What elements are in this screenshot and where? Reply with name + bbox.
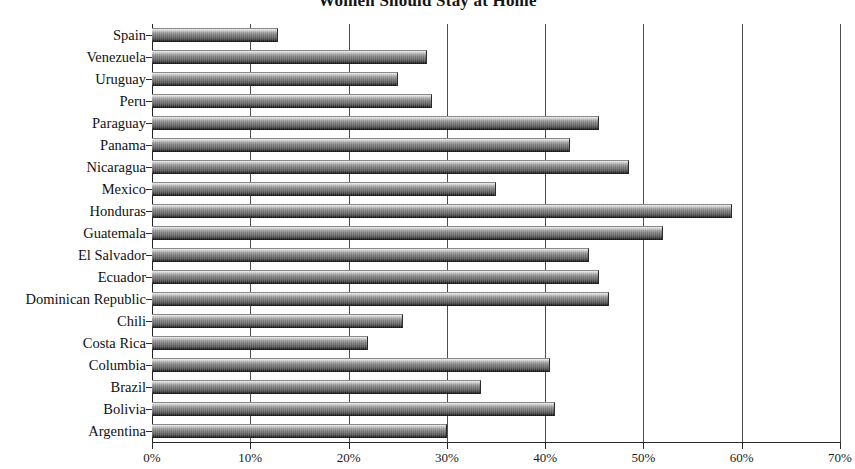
category-label: Argentina bbox=[0, 420, 146, 442]
category-label: Peru bbox=[0, 90, 146, 112]
bar bbox=[152, 292, 609, 306]
category-label: Spain bbox=[0, 24, 146, 46]
category-label: Dominican Republic bbox=[0, 288, 146, 310]
chart-row: Uruguay bbox=[0, 68, 855, 90]
x-tick-40 bbox=[545, 442, 546, 449]
bar bbox=[152, 270, 599, 284]
bar bbox=[152, 402, 555, 416]
category-label: Honduras bbox=[0, 200, 146, 222]
x-tick-label: 0% bbox=[143, 450, 160, 466]
bar bbox=[152, 116, 599, 130]
bar bbox=[152, 314, 403, 328]
bar bbox=[152, 182, 496, 196]
chart-row: Costa Rica bbox=[0, 332, 855, 354]
chart-row: Guatemala bbox=[0, 222, 855, 244]
category-label: Guatemala bbox=[0, 222, 146, 244]
category-label: Brazil bbox=[0, 376, 146, 398]
chart-row: Nicaragua bbox=[0, 156, 855, 178]
bar bbox=[152, 358, 550, 372]
category-label: Panama bbox=[0, 134, 146, 156]
chart-row: Peru bbox=[0, 90, 855, 112]
x-tick-label: 20% bbox=[337, 450, 361, 466]
chart-row: Columbia bbox=[0, 354, 855, 376]
chart-row: Spain bbox=[0, 24, 855, 46]
chart-title: Women Should Stay at Home bbox=[0, 0, 855, 11]
bar bbox=[152, 380, 481, 394]
x-tick-label: 30% bbox=[435, 450, 459, 466]
category-label: Chili bbox=[0, 310, 146, 332]
bar bbox=[152, 72, 398, 86]
x-tick-10 bbox=[250, 442, 251, 449]
x-tick-60 bbox=[742, 442, 743, 449]
x-tick-label: 50% bbox=[632, 450, 656, 466]
x-tick-30 bbox=[447, 442, 448, 449]
bar bbox=[152, 50, 427, 64]
chart-row: Argentina bbox=[0, 420, 855, 442]
chart-row: Dominican Republic bbox=[0, 288, 855, 310]
bar bbox=[152, 204, 732, 218]
x-tick-label: 40% bbox=[533, 450, 557, 466]
category-label: Mexico bbox=[0, 178, 146, 200]
category-label: Nicaragua bbox=[0, 156, 146, 178]
bar bbox=[152, 424, 447, 438]
chart-row: Chili bbox=[0, 310, 855, 332]
category-label: Ecuador bbox=[0, 266, 146, 288]
bar bbox=[152, 248, 589, 262]
x-tick-20 bbox=[349, 442, 350, 449]
category-label: Bolivia bbox=[0, 398, 146, 420]
bar bbox=[152, 28, 278, 42]
x-tick-0 bbox=[152, 442, 153, 449]
bar bbox=[152, 336, 368, 350]
category-label: Uruguay bbox=[0, 68, 146, 90]
chart-row: Mexico bbox=[0, 178, 855, 200]
category-label: Venezuela bbox=[0, 46, 146, 68]
chart-row: El Salvador bbox=[0, 244, 855, 266]
bar bbox=[152, 94, 432, 108]
x-tick-label: 70% bbox=[828, 450, 852, 466]
chart-row: Panama bbox=[0, 134, 855, 156]
bar bbox=[152, 160, 629, 174]
chart-row: Paraguay bbox=[0, 112, 855, 134]
category-label: Costa Rica bbox=[0, 332, 146, 354]
chart-row: Brazil bbox=[0, 376, 855, 398]
chart-row: Venezuela bbox=[0, 46, 855, 68]
bar bbox=[152, 226, 663, 240]
x-tick-label: 10% bbox=[238, 450, 262, 466]
x-tick-50 bbox=[643, 442, 644, 449]
x-axis-line bbox=[152, 442, 841, 443]
category-label: Columbia bbox=[0, 354, 146, 376]
category-label: Paraguay bbox=[0, 112, 146, 134]
chart-row: Ecuador bbox=[0, 266, 855, 288]
bar-chart: Women Should Stay at Home 0%10%20%30%40%… bbox=[0, 0, 855, 469]
x-tick-label: 60% bbox=[730, 450, 754, 466]
chart-row: Bolivia bbox=[0, 398, 855, 420]
category-label: El Salvador bbox=[0, 244, 146, 266]
x-tick-70 bbox=[840, 442, 841, 449]
chart-row: Honduras bbox=[0, 200, 855, 222]
bar bbox=[152, 138, 570, 152]
